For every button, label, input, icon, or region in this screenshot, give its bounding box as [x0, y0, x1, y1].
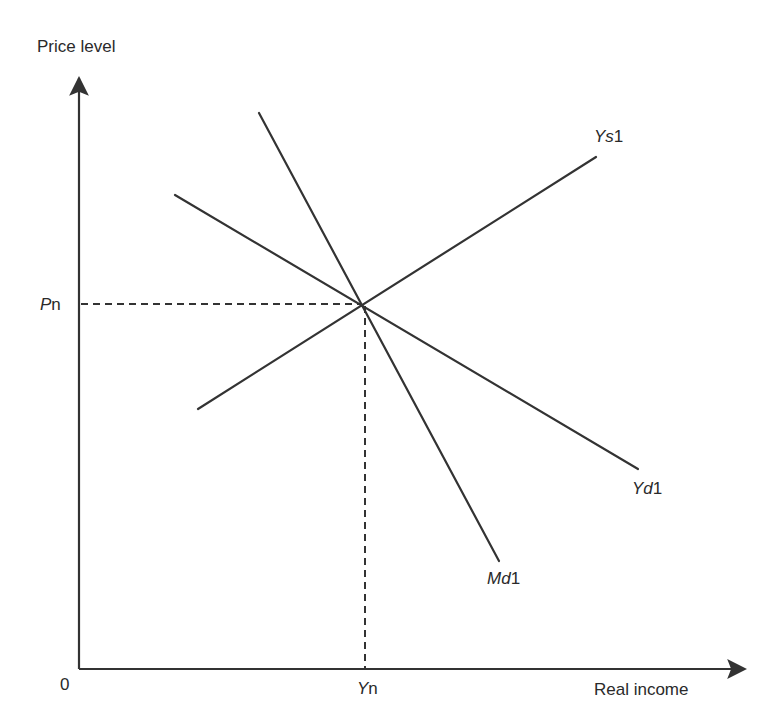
origin-label: 0	[60, 676, 69, 693]
yd1-label-suffix: 1	[653, 479, 662, 498]
price-equilibrium-label: Pn	[40, 296, 61, 313]
md1-curve	[259, 113, 499, 561]
yd1-label-symbol: Yd	[632, 479, 653, 498]
income-label-symbol: Y	[357, 679, 368, 698]
md1-label-symbol: Md	[487, 569, 511, 588]
price-label-suffix: n	[51, 295, 60, 314]
x-axis-label: Real income	[594, 681, 689, 698]
ys1-label-symbol: Ys	[594, 127, 614, 146]
md1-label: Md1	[487, 570, 520, 587]
yd1-curve	[175, 195, 638, 469]
income-label-suffix: n	[368, 679, 377, 698]
md1-label-suffix: 1	[511, 569, 520, 588]
price-label-symbol: P	[40, 295, 51, 314]
ys1-label-suffix: 1	[614, 127, 623, 146]
income-equilibrium-label: Yn	[357, 680, 378, 697]
y-axis-label: Price level	[37, 38, 115, 55]
ys1-label: Ys1	[594, 128, 623, 145]
yd1-label: Yd1	[632, 480, 662, 497]
economics-diagram	[0, 0, 778, 725]
